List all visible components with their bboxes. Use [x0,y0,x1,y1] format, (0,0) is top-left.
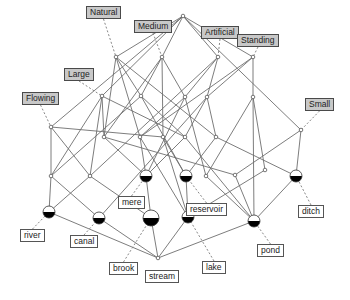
lattice-edge [158,221,254,258]
label-leader-line [301,111,320,130]
concept-node[interactable] [181,14,185,18]
concept-node[interactable] [156,256,160,260]
lattice-edge [104,137,235,175]
object-concept-node[interactable] [143,210,159,226]
lattice-edge [90,57,218,176]
concept-node[interactable] [214,135,218,139]
concept-node[interactable] [183,95,187,99]
object-concept-node[interactable] [140,170,152,182]
attribute-label-large[interactable]: Large [64,68,94,81]
lattice-edge [185,57,218,97]
concept-node[interactable] [216,55,220,59]
lattice-edges [49,16,301,258]
lattice-nodes [43,14,303,260]
lattice-edge [51,176,99,218]
lattice-edge [235,175,254,221]
attribute-label-small[interactable]: Small [305,98,334,111]
object-label-pond[interactable]: pond [257,244,284,257]
concept-node[interactable] [183,135,187,139]
lattice-edge [206,97,253,176]
concept-node[interactable] [299,128,303,132]
concept-node[interactable] [102,135,106,139]
lattice-edge [116,57,140,137]
concept-node[interactable] [49,174,53,178]
concept-node[interactable] [263,168,267,172]
attribute-label-standing[interactable]: Standing [237,34,279,47]
lattice-edge [49,176,90,212]
lattice-edge [254,176,296,221]
object-concept-node[interactable] [180,170,192,182]
concept-node[interactable] [100,94,104,98]
lattice-edge [235,130,301,175]
label-leader-line [218,39,220,57]
label-leaders [33,19,320,262]
label-leader-line [188,217,214,261]
lattice-edge [163,137,186,176]
concept-node[interactable] [49,125,53,129]
concept-node[interactable] [139,94,143,98]
concept-node[interactable] [138,135,142,139]
attribute-label-flowing[interactable]: Flowing [22,92,59,105]
lattice-edge [51,96,141,176]
lattice-edge [186,137,216,176]
concept-node[interactable] [205,95,209,99]
label-leader-line [41,105,52,127]
lattice-edge [216,137,296,176]
label-leader-line [153,33,162,57]
concept-node[interactable] [160,55,164,59]
object-label-brook[interactable]: brook [109,262,138,275]
concept-lattice [0,0,350,300]
lattice-edge [51,127,90,176]
object-concept-node[interactable] [248,215,260,227]
lattice-edge [99,97,207,218]
lattice-edge [162,57,163,137]
concept-node[interactable] [88,174,92,178]
concept-node[interactable] [251,55,255,59]
object-label-lake[interactable]: lake [202,261,226,274]
lattice-edge [116,57,141,96]
lattice-edge [296,130,301,176]
object-concept-node[interactable] [93,212,105,224]
concept-node[interactable] [204,174,208,178]
object-concept-node[interactable] [43,206,55,218]
concept-node[interactable] [251,95,255,99]
object-label-canal[interactable]: canal [70,235,98,248]
concept-node[interactable] [114,55,118,59]
object-label-river[interactable]: river [20,229,45,242]
lattice-edge [104,57,116,137]
object-label-stream[interactable]: stream [145,270,179,283]
object-label-mere[interactable]: mere [118,196,145,209]
concept-node[interactable] [233,173,237,177]
attribute-label-natural[interactable]: Natural [86,6,121,19]
object-label-ditch[interactable]: ditch [298,205,324,218]
lattice-edge [116,57,216,137]
object-concept-node[interactable] [290,170,302,182]
attribute-label-artificial[interactable]: Artificial [201,26,239,39]
lattice-edge [253,97,254,221]
attribute-label-medium[interactable]: Medium [134,20,172,33]
label-leader-line [104,19,117,57]
lattice-edge [141,57,162,96]
object-label-reservoir[interactable]: reservoir [186,203,227,216]
concept-node[interactable] [161,135,165,139]
